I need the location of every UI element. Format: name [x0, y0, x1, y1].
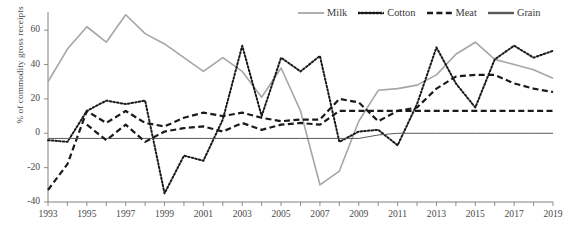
- series-line-grain: [48, 133, 553, 138]
- legend-item-milk[interactable]: Milk: [298, 8, 347, 18]
- legend-item-meat[interactable]: Meat: [427, 8, 477, 18]
- series-line-meat: [48, 75, 553, 190]
- y-tick-label: 60: [14, 23, 40, 34]
- series-line-meat-secondary: [87, 111, 553, 142]
- x-tick-label: 2009: [342, 208, 376, 219]
- plot-area: [0, 0, 569, 233]
- chart-legend: MilkCottonMeatGrain: [298, 4, 541, 22]
- series-line-cotton: [48, 46, 553, 194]
- line-dashed-icon: [427, 8, 453, 18]
- legend-item-grain[interactable]: Grain: [488, 8, 541, 18]
- y-tick-label: 20: [14, 92, 40, 103]
- series-line-milk: [48, 15, 553, 185]
- legend-label: Milk: [327, 8, 347, 18]
- legend-label: Meat: [456, 8, 477, 18]
- legend-label: Grain: [517, 8, 541, 18]
- legend-label: Cotton: [387, 8, 415, 18]
- series-group: [48, 15, 553, 194]
- x-tick-label: 1995: [70, 208, 104, 219]
- legend-item-cotton[interactable]: Cotton: [358, 8, 415, 18]
- x-tick-label: 1999: [148, 208, 182, 219]
- x-tick-label: 1993: [31, 208, 65, 219]
- y-tick-label: 0: [14, 126, 40, 137]
- x-tick-label: 2005: [264, 208, 298, 219]
- x-tick-label: 2015: [458, 208, 492, 219]
- y-tick-label: -20: [14, 161, 40, 172]
- x-tick-label: 1997: [109, 208, 143, 219]
- line-chart: % of commodity gross receipts 6040200-20…: [0, 0, 569, 233]
- line-solid-black-icon: [488, 8, 514, 18]
- x-tick-label: 2013: [419, 208, 453, 219]
- y-tick-label: 40: [14, 58, 40, 69]
- y-tick-label: -40: [14, 195, 40, 206]
- line-dotted-icon: [358, 8, 384, 18]
- axes-group: [44, 12, 553, 206]
- x-tick-label: 2001: [186, 208, 220, 219]
- x-tick-label: 2017: [497, 208, 531, 219]
- line-solid-gray-icon: [298, 8, 324, 18]
- x-tick-label: 2011: [381, 208, 415, 219]
- x-tick-label: 2007: [303, 208, 337, 219]
- x-tick-label: 2003: [225, 208, 259, 219]
- x-tick-label: 2019: [536, 208, 569, 219]
